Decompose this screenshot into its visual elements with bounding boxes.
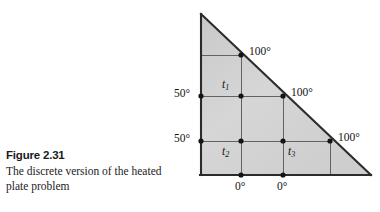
label-hypotenuse-middle: 100° xyxy=(291,87,313,99)
label-node-t2-sub: 2 xyxy=(225,150,229,159)
label-hypotenuse-top: 100° xyxy=(249,46,271,58)
node-bottom-right xyxy=(280,172,285,177)
node-left-lower xyxy=(198,138,203,143)
figure-number: Figure 2.31 xyxy=(6,148,182,162)
label-node-t1-sub: 1 xyxy=(225,83,229,92)
node-bottom-left xyxy=(238,172,243,177)
node-t3 xyxy=(280,138,285,143)
label-node-t3-sub: 3 xyxy=(291,150,295,159)
node-left-upper xyxy=(198,93,203,98)
label-node-t2: t2 xyxy=(222,146,229,158)
label-hypotenuse-bottom: 100° xyxy=(338,132,360,144)
node-hyp-bottom xyxy=(327,138,332,143)
figure-page: 100° 100° 100° 50° 50° 0° 0° t1 t2 t3 Fi… xyxy=(0,0,380,212)
label-node-t1: t1 xyxy=(222,79,229,91)
figure-caption-text: The discrete version of the heated plate… xyxy=(6,164,178,193)
node-hyp-middle xyxy=(280,93,285,98)
label-bottom-right: 0° xyxy=(277,181,287,193)
label-left-lower: 50° xyxy=(174,133,190,145)
label-node-t3: t3 xyxy=(288,146,295,158)
label-left-upper: 50° xyxy=(174,88,190,100)
figure-caption-block: Figure 2.31 The discrete version of the … xyxy=(6,148,182,193)
node-t1 xyxy=(238,93,243,98)
label-bottom-left: 0° xyxy=(235,181,245,193)
node-t2 xyxy=(238,138,243,143)
node-hyp-top xyxy=(238,52,243,57)
